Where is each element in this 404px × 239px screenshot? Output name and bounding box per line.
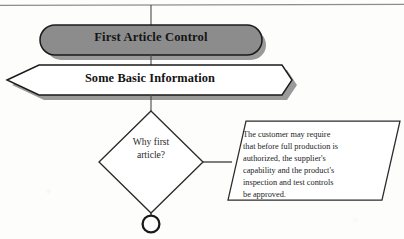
flowchart-page: First Article Control Some Basic Informa… xyxy=(0,0,404,239)
top-horizontal-rule xyxy=(0,4,404,5)
node-decision xyxy=(99,111,203,213)
node-banner-label: Some Basic Information xyxy=(30,72,270,85)
node-decision-label: Why first article? xyxy=(111,136,191,161)
node-note-label: The customer may require that before ful… xyxy=(243,129,359,201)
node-connector-circle xyxy=(143,216,160,233)
node-terminator-label: First Article Control xyxy=(40,31,262,44)
